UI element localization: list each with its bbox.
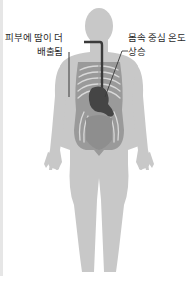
- sweat-label-line2: 배출됨: [5, 45, 63, 59]
- core-temp-label: 몸속 중심 온도 상승: [128, 31, 186, 59]
- core-temp-label-line1: 몸속 중심 온도: [128, 31, 186, 45]
- core-temp-label-line2: 상승: [128, 45, 186, 59]
- sweat-label-line1: 피부에 땀이 더: [5, 31, 63, 45]
- sweat-label: 피부에 땀이 더 배출됨: [5, 31, 63, 59]
